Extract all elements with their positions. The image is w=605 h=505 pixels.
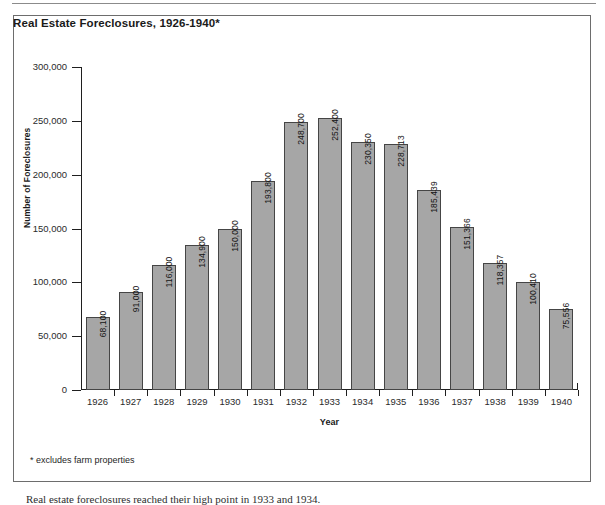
y-axis-tick-label: 200,000 [33, 169, 67, 180]
chart-page: Real Estate Foreclosures, 1926-1940* Num… [0, 0, 605, 505]
x-axis-tick-label: 1933 [319, 396, 340, 407]
figure-caption-text: Real estate foreclosures reached their h… [26, 493, 586, 505]
x-axis-tick-label: 1930 [220, 396, 241, 407]
x-axis-tick-label: 1936 [418, 396, 439, 407]
bar: 134,900 [185, 245, 209, 390]
bar: 116,000 [152, 265, 176, 390]
bar: 118,357 [483, 263, 507, 390]
y-axis-tick: 0 [72, 390, 81, 391]
x-axis-tick-label: 1938 [485, 396, 506, 407]
bar-value-label: 100,410 [528, 273, 538, 304]
bar-value-label: 151,366 [462, 218, 472, 249]
bar: 228,713 [384, 144, 408, 390]
x-axis-tick-label: 1940 [551, 396, 572, 407]
bar-value-label: 150,000 [230, 220, 240, 251]
bar-value-label: 252,400 [330, 110, 340, 141]
chart-footnote: * excludes farm properties [30, 455, 135, 465]
y-axis-title: Number of Foreclosures [22, 128, 32, 228]
bar: 151,366 [450, 227, 474, 390]
bar-value-label: 91,000 [131, 286, 141, 313]
x-axis-tick-label: 1932 [286, 396, 307, 407]
x-axis-tick-label: 1935 [385, 396, 406, 407]
y-axis-tick-label: 300,000 [33, 61, 67, 72]
bar-value-label: 68,100 [98, 310, 108, 337]
y-axis-tick-label: 50,000 [38, 330, 67, 341]
bar: 150,000 [218, 229, 242, 391]
x-axis-tick-label: 1937 [451, 396, 472, 407]
top-divider-rule [12, 3, 596, 4]
x-axis-tick-label: 1928 [153, 396, 174, 407]
x-axis-title: Year [81, 417, 578, 427]
x-axis-tick-label: 1929 [186, 396, 207, 407]
bar: 91,000 [119, 292, 143, 390]
x-axis-tick [578, 390, 579, 396]
bar-value-label: 228,713 [396, 135, 406, 166]
bar-series: 68,10091,000116,000134,900150,000193,800… [81, 67, 578, 390]
bar: 248,700 [284, 122, 308, 390]
y-axis-tick-label: 0 [62, 384, 67, 395]
chart-title: Real Estate Foreclosures, 1926-1940* [13, 17, 220, 29]
y-axis-tick-label: 150,000 [33, 223, 67, 234]
y-axis-tick: 150,000 [72, 229, 81, 230]
bar: 230,350 [351, 142, 375, 390]
plot-area: 050,000100,000150,000200,000250,000300,0… [81, 67, 578, 390]
y-axis-tick: 100,000 [72, 282, 81, 283]
bar-value-label: 185,439 [429, 182, 439, 213]
figure-caption-clipped: Real estate foreclosures reached their h… [26, 493, 586, 505]
bar: 185,439 [417, 190, 441, 390]
x-axis-tick-label: 1934 [352, 396, 373, 407]
bar-value-label: 116,000 [164, 257, 174, 288]
bar-value-label: 230,350 [363, 133, 373, 164]
bar: 75,556 [549, 309, 573, 390]
bar-value-label: 193,800 [263, 173, 273, 204]
y-axis-tick: 200,000 [72, 175, 81, 176]
y-axis-tick: 50,000 [72, 336, 81, 337]
y-axis-tick: 300,000 [72, 67, 81, 68]
bar: 193,800 [251, 181, 275, 390]
bar: 252,400 [318, 118, 342, 390]
bar: 68,100 [86, 317, 110, 390]
bar: 100,410 [516, 282, 540, 390]
y-axis-tick: 250,000 [72, 121, 81, 122]
bar-value-label: 248,700 [296, 114, 306, 145]
bar-value-label: 134,900 [197, 236, 207, 267]
x-axis-tick-label: 1927 [120, 396, 141, 407]
x-axis-tick-label: 1939 [518, 396, 539, 407]
x-axis-tick-labels: 1926192719281929193019311932193319341935… [81, 396, 578, 412]
y-axis-tick-label: 100,000 [33, 276, 67, 287]
bar-value-label: 75,556 [561, 302, 571, 329]
x-axis-tick-label: 1926 [87, 396, 108, 407]
y-axis-tick-label: 250,000 [33, 115, 67, 126]
bar-value-label: 118,357 [495, 254, 505, 285]
x-axis-tick-label: 1931 [253, 396, 274, 407]
